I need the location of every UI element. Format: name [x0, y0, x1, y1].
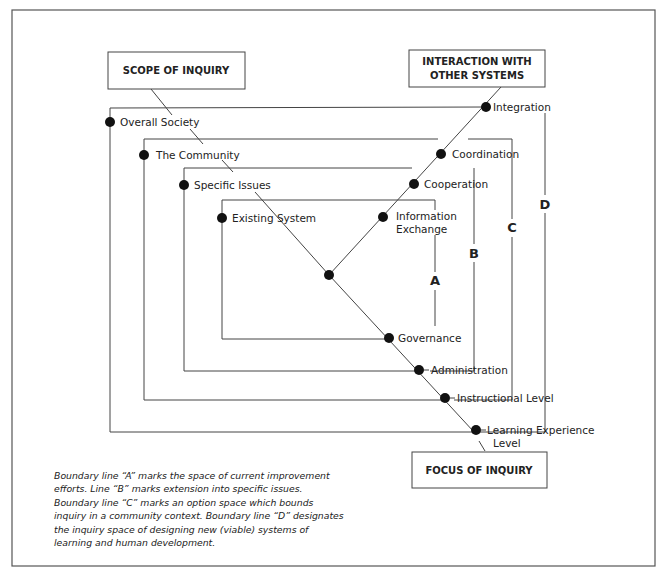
node-the-community: [139, 150, 149, 160]
label-the-community: The Community: [155, 149, 240, 161]
label-coordination: Coordination: [452, 148, 519, 160]
label-overall-society: Overall Society: [120, 116, 199, 128]
node-cooperation: [409, 179, 419, 189]
label-instructional-level: Instructional Level: [457, 392, 554, 404]
boundary-letter-d: D: [540, 197, 551, 212]
node-existing-system: [217, 213, 227, 223]
label-governance: Governance: [398, 332, 461, 344]
label-integration: Integration: [493, 101, 551, 113]
boundary-letter-b: B: [469, 246, 479, 261]
label-specific-issues: Specific Issues: [194, 179, 271, 191]
label-information-exchange-line1: Information: [396, 210, 457, 222]
diagram-canvas: SCOPE OF INQUIRY INTERACTION WITH OTHER …: [0, 0, 664, 573]
node-learning-experience-level: [471, 425, 481, 435]
scope-axis: [151, 89, 172, 115]
node-administration: [414, 365, 424, 375]
interaction-title-line2: OTHER SYSTEMS: [430, 70, 524, 81]
focus-axis: [329, 275, 474, 432]
node-coordination: [436, 149, 446, 159]
interaction-with-other-systems-box: INTERACTION WITH OTHER SYSTEMS: [409, 50, 545, 87]
label-existing-system: Existing System: [232, 212, 316, 224]
boundary-letter-a: A: [430, 273, 440, 288]
boundary-letter-c: C: [507, 220, 517, 235]
label-learning-experience-line1: Learning Experience: [487, 424, 594, 436]
boundary-c: [144, 139, 446, 400]
boundary-b: [184, 168, 417, 371]
diagram-caption: Boundary line “A” marks the space of cur…: [54, 469, 344, 549]
focus-title: FOCUS OF INQUIRY: [425, 465, 533, 476]
label-information-exchange-line2: Exchange: [396, 223, 447, 235]
scope-title: SCOPE OF INQUIRY: [123, 65, 230, 76]
focus-of-inquiry-box: FOCUS OF INQUIRY: [412, 452, 547, 488]
node-overall-society: [105, 117, 115, 127]
scope-of-inquiry-box: SCOPE OF INQUIRY: [108, 52, 245, 89]
label-cooperation: Cooperation: [424, 178, 488, 190]
node-specific-issues: [179, 180, 189, 190]
label-administration: Administration: [431, 364, 508, 376]
label-learning-experience-line2: Level: [493, 437, 521, 449]
node-information-exchange: [378, 212, 388, 222]
node-governance: [384, 333, 394, 343]
interaction-title-line1: INTERACTION WITH: [422, 56, 531, 67]
node-instructional-level: [440, 393, 450, 403]
node-integration: [481, 102, 491, 112]
central-node: [324, 270, 334, 280]
